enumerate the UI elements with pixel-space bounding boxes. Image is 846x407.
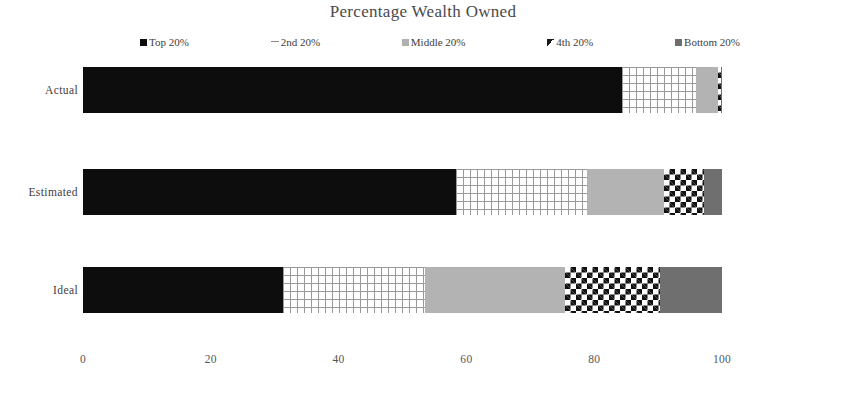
segment-middle-20-actual[interactable] xyxy=(696,67,717,113)
segment-bottom-20-estimated[interactable] xyxy=(704,169,722,215)
chart-legend: Top 20% 2nd 20% Middle 20% 4th 20% Botto… xyxy=(140,33,740,51)
chart-title: Percentage Wealth Owned xyxy=(0,2,846,22)
x-axis-tick-0: 0 xyxy=(80,353,86,365)
x-axis: 0204060801001 xyxy=(0,345,846,375)
x-axis-tick-40: 40 xyxy=(333,353,345,365)
legend-item-top-20[interactable]: Top 20% xyxy=(140,36,189,48)
legend-label-2nd-20: 2nd 20% xyxy=(281,36,320,48)
x-axis-tick-100: 100 xyxy=(713,353,731,365)
segment-middle-20-ideal[interactable] xyxy=(425,267,565,313)
bar-row-estimated[interactable] xyxy=(83,169,722,215)
segment-2nd-20-estimated[interactable] xyxy=(456,169,587,215)
segment-4th-20-estimated[interactable] xyxy=(664,169,704,215)
segment-bottom-20-actual[interactable] xyxy=(721,67,722,113)
legend-item-4th-20[interactable]: 4th 20% xyxy=(547,36,593,48)
segment-bottom-20-ideal[interactable] xyxy=(660,267,722,313)
legend-label-middle-20: Middle 20% xyxy=(411,36,466,48)
y-axis-labels: Actual Estimated Ideal xyxy=(5,55,78,345)
legend-swatch-middle-20-icon xyxy=(402,39,409,46)
legend-label-top-20: Top 20% xyxy=(149,36,189,48)
segment-2nd-20-actual[interactable] xyxy=(622,67,697,113)
segment-2nd-20-ideal[interactable] xyxy=(283,267,425,313)
legend-label-4th-20: 4th 20% xyxy=(556,36,593,48)
legend-swatch-top-20-icon xyxy=(140,39,147,46)
y-axis-label-estimated: Estimated xyxy=(8,186,78,198)
x-axis-tick-60: 60 xyxy=(460,353,472,365)
legend-swatch-2nd-20-icon xyxy=(271,41,279,44)
bar-row-ideal[interactable] xyxy=(83,267,722,313)
y-axis-label-ideal: Ideal xyxy=(8,284,78,296)
legend-item-bottom-20[interactable]: Bottom 20% xyxy=(675,36,740,48)
segment-middle-20-estimated[interactable] xyxy=(587,169,664,215)
legend-swatch-4th-20-icon xyxy=(547,39,554,46)
legend-label-bottom-20: Bottom 20% xyxy=(684,36,740,48)
segment-top-20-estimated[interactable] xyxy=(83,169,456,215)
x-axis-tick-80: 80 xyxy=(588,353,600,365)
x-axis-tick-20: 20 xyxy=(205,353,217,365)
legend-item-2nd-20[interactable]: 2nd 20% xyxy=(271,36,320,48)
segment-4th-20-ideal[interactable] xyxy=(565,267,660,313)
segment-top-20-ideal[interactable] xyxy=(83,267,283,313)
bar-row-actual[interactable] xyxy=(83,67,722,113)
plot-area: Actual Estimated Ideal xyxy=(0,55,846,345)
legend-swatch-bottom-20-icon xyxy=(675,39,682,46)
segment-top-20-actual[interactable] xyxy=(83,67,622,113)
y-axis-label-actual: Actual xyxy=(8,84,78,96)
chart-container: Percentage Wealth Owned Top 20% 2nd 20% … xyxy=(0,0,846,407)
legend-item-middle-20[interactable]: Middle 20% xyxy=(402,36,466,48)
